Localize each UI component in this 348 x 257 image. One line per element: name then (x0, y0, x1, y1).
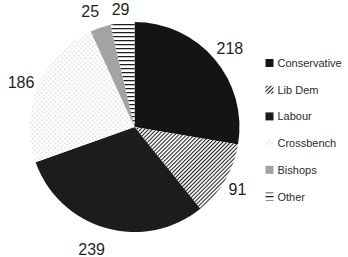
legend-label-conservative: Conservative (278, 57, 342, 69)
legend-item-labour: Labour (266, 110, 313, 122)
legend-swatch-crossbench-icon (266, 139, 274, 147)
legend-label-labour: Labour (278, 110, 313, 122)
value-label-crossbench: 186 (8, 74, 35, 91)
legend-label-lib-dem: Lib Dem (278, 84, 319, 96)
legend-label-crossbench: Crossbench (278, 137, 337, 149)
legend-swatch-lib-dem-icon (266, 86, 274, 94)
value-label-labour: 239 (78, 241, 105, 257)
value-label-lib-dem: 91 (228, 181, 246, 198)
value-label-conservative: 218 (217, 40, 244, 57)
legend-item-crossbench: Crossbench (266, 137, 337, 149)
chart-figure: 218912391862529 ConservativeLib DemLabou… (0, 0, 348, 257)
legend: ConservativeLib DemLabourCrossbenchBisho… (266, 57, 342, 203)
legend-swatch-conservative-icon (266, 59, 274, 67)
legend-label-bishops: Bishops (278, 164, 318, 176)
legend-label-other: Other (278, 191, 306, 203)
legend-swatch-labour-icon (266, 112, 274, 120)
pie-chart: 218912391862529 ConservativeLib DemLabou… (0, 0, 348, 257)
legend-item-lib-dem: Lib Dem (266, 84, 319, 96)
legend-item-bishops: Bishops (266, 164, 318, 176)
legend-swatch-other-icon (266, 193, 274, 201)
legend-swatch-bishops-icon (266, 166, 274, 174)
value-label-other: 29 (112, 1, 130, 18)
legend-item-other: Other (266, 191, 306, 203)
value-label-bishops: 25 (81, 3, 99, 20)
pie-slices (29, 22, 239, 232)
legend-item-conservative: Conservative (266, 57, 342, 69)
